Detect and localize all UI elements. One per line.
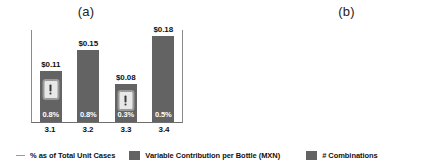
figure: (a) $0.11 0.8%	[0, 0, 425, 168]
legend-label: Variable Contribution per Bottle (MXN)	[145, 151, 280, 160]
legend-square-marker-icon	[306, 151, 317, 160]
x-tick-label: 3.3	[107, 125, 145, 134]
bar-slot: $0.08 0.3%	[107, 30, 145, 122]
bar-percent-label: 0.8%	[42, 110, 59, 119]
panel-label-b: (b)	[240, 4, 425, 19]
bar-slot: $0.15 0.8%	[70, 30, 108, 122]
legend-line-marker-icon	[16, 155, 25, 156]
chart-panel-b: (b) 101 8 164	[212, 0, 425, 142]
bar-value-label: $0.15	[78, 39, 98, 48]
plot-area-a: $0.11 0.8% $0.15 0.8%	[31, 30, 183, 123]
x-tick-label: 3.4	[145, 125, 183, 134]
bar[interactable]: $0.11 0.8%	[40, 71, 62, 122]
legend-item-variable-contribution[interactable]: Variable Contribution per Bottle (MXN)	[129, 151, 280, 160]
legend-square-marker-icon	[129, 151, 140, 160]
bar-slot: $0.11 0.8%	[32, 30, 70, 122]
bar-group-a: $0.11 0.8% $0.15 0.8%	[32, 30, 182, 122]
bar-percent-label: 0.5%	[155, 110, 172, 119]
legend-item-percent-total-unit-cases[interactable]: % as of Total Unit Cases	[16, 151, 115, 160]
chart-legend: % as of Total Unit Cases Variable Contri…	[0, 147, 425, 163]
warning-exclamation-icon	[118, 91, 133, 110]
x-axis-tick-labels-a: 3.1 3.2 3.3 3.4	[31, 125, 183, 134]
bar-slot: $0.18 0.5%	[145, 30, 183, 122]
legend-item-combinations[interactable]: # Combinations	[306, 151, 378, 160]
x-tick-label: 3.2	[69, 125, 107, 134]
bar-value-label: $0.11	[41, 60, 60, 69]
bar[interactable]: $0.08 0.3%	[115, 84, 137, 122]
warning-exclamation-icon	[43, 80, 58, 99]
bar-value-label: $0.18	[153, 25, 173, 34]
bar-percent-label: 0.3%	[117, 110, 134, 119]
bar[interactable]: $0.15 0.8%	[77, 50, 99, 122]
legend-label: # Combinations	[322, 151, 378, 160]
bar[interactable]: $0.18 0.5%	[152, 36, 174, 122]
bar-percent-label: 0.8%	[80, 110, 97, 119]
legend-label: % as of Total Unit Cases	[30, 151, 115, 160]
bar-value-label: $0.08	[116, 73, 136, 82]
chart-panel-a: (a) $0.11 0.8%	[0, 0, 212, 142]
x-tick-label: 3.1	[31, 125, 69, 134]
panel-label-a: (a)	[0, 4, 192, 19]
